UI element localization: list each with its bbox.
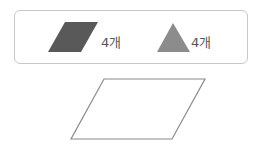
target-parallelogram-figure bbox=[0, 0, 265, 153]
